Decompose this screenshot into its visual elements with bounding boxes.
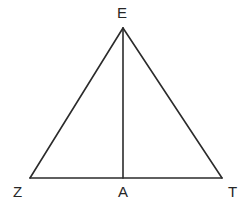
triangle-figure	[0, 0, 246, 206]
geometry-diagram: E Z A T	[0, 0, 246, 206]
vertex-label-Z: Z	[13, 184, 22, 199]
vertex-label-T: T	[228, 184, 237, 199]
segment-EZ	[30, 28, 123, 178]
vertex-label-E: E	[117, 5, 127, 20]
segment-ET	[123, 28, 222, 178]
vertex-label-A: A	[118, 184, 128, 199]
